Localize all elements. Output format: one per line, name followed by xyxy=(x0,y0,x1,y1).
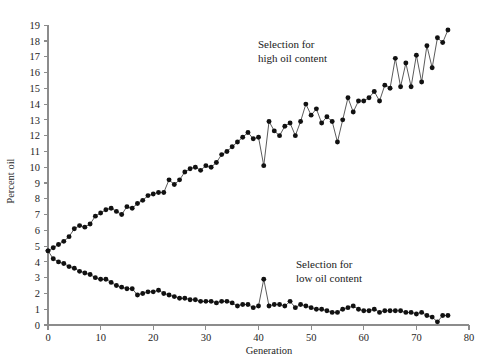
series-data-point xyxy=(209,165,214,170)
series-data-point xyxy=(277,133,282,138)
y-tick-label: 7 xyxy=(35,209,40,220)
series-data-point xyxy=(393,56,398,61)
series-data-point xyxy=(67,234,72,239)
series-data-point xyxy=(340,307,345,312)
series-data-point xyxy=(314,307,319,312)
series-data-point xyxy=(140,291,145,296)
series-data-point xyxy=(188,297,193,302)
x-axis-tick-labels: 01020304050607080 xyxy=(45,332,474,343)
series-data-point xyxy=(298,119,303,124)
series-data-point xyxy=(356,307,361,312)
y-tick-label: 11 xyxy=(30,146,40,157)
series-data-point xyxy=(377,98,382,103)
y-tick-label: 12 xyxy=(30,130,41,141)
series-data-point xyxy=(114,283,119,288)
series-data-point xyxy=(388,86,393,91)
figure-container: 01020304050607080 0123456789101112131415… xyxy=(0,0,478,362)
series-data-point xyxy=(446,27,451,32)
series-data-point xyxy=(93,214,98,219)
series-data-point xyxy=(214,300,219,305)
y-tick-label: 3 xyxy=(35,272,40,283)
series-data-point xyxy=(361,98,366,103)
series-data-point xyxy=(109,280,114,285)
y-tick-label: 6 xyxy=(35,225,40,236)
series-data-point xyxy=(424,313,429,318)
series-data-point xyxy=(130,286,135,291)
series-data-point xyxy=(124,204,129,209)
series-data-point xyxy=(188,166,193,171)
series-data-point xyxy=(335,140,340,145)
x-tick-label: 80 xyxy=(464,332,475,343)
y-tick-label: 9 xyxy=(35,178,40,189)
x-tick-label: 70 xyxy=(411,332,422,343)
x-axis-title: Generation xyxy=(246,345,293,356)
series-data-point xyxy=(251,305,256,310)
series-data-point xyxy=(230,300,235,305)
series-data-point xyxy=(198,299,203,304)
series-data-point xyxy=(209,299,214,304)
series-data-point xyxy=(324,114,329,119)
series-data-point xyxy=(351,304,356,309)
series-data-point xyxy=(167,293,172,298)
chart-annotations: Selection forhigh oil contentSelection f… xyxy=(258,38,362,284)
series-data-point xyxy=(161,190,166,195)
series-data-point xyxy=(224,299,229,304)
y-tick-label: 17 xyxy=(30,51,41,62)
series-data-point xyxy=(430,315,435,320)
series-data-point xyxy=(140,198,145,203)
series-data-point xyxy=(156,190,161,195)
series-data-point xyxy=(146,289,151,294)
series-data-point xyxy=(272,302,277,307)
series-data-point xyxy=(203,163,208,168)
x-tick-label: 40 xyxy=(253,332,264,343)
series-data-point xyxy=(135,293,140,298)
series-data-point xyxy=(103,207,108,212)
y-tick-label: 2 xyxy=(35,288,40,299)
series-data-point xyxy=(293,305,298,310)
series-data-point xyxy=(182,296,187,301)
series-data-point xyxy=(246,302,251,307)
series-data-point xyxy=(130,206,135,211)
series-data-point xyxy=(82,270,87,275)
series-data-point xyxy=(51,256,56,261)
series-data-point xyxy=(246,130,251,135)
series-data-point xyxy=(409,310,414,315)
series-data-point xyxy=(446,313,451,318)
series-data-point xyxy=(398,308,403,313)
series-data-point xyxy=(319,121,324,126)
series-data-point xyxy=(214,160,219,165)
x-tick-label: 50 xyxy=(306,332,317,343)
series-data-point xyxy=(372,307,377,312)
y-tick-label: 13 xyxy=(30,115,41,126)
series-data-point xyxy=(346,305,351,310)
series-data-point xyxy=(424,43,429,48)
series-data-point xyxy=(151,192,156,197)
series-data-point xyxy=(46,248,51,253)
series-high-oil xyxy=(46,27,451,253)
series-data-point xyxy=(403,310,408,315)
series-data-point xyxy=(72,266,77,271)
series-data-point xyxy=(172,294,177,299)
series-data-point xyxy=(56,242,61,247)
series-data-point xyxy=(146,193,151,198)
series-data-point xyxy=(261,277,266,282)
series-data-point xyxy=(382,308,387,313)
series-data-point xyxy=(114,209,119,214)
series-data-point xyxy=(77,269,82,274)
series-data-point xyxy=(93,275,98,280)
series-data-point xyxy=(235,304,240,309)
annotation-line: Selection for xyxy=(258,38,315,50)
series-data-point xyxy=(88,272,93,277)
series-data-point xyxy=(409,84,414,89)
series-data-point xyxy=(324,308,329,313)
series-data-point xyxy=(330,119,335,124)
series-data-point xyxy=(219,152,224,157)
series-data-point xyxy=(56,259,61,264)
y-tick-label: 8 xyxy=(35,193,40,204)
series-data-point xyxy=(303,102,308,107)
series-data-point xyxy=(309,113,314,118)
series-data-point xyxy=(251,136,256,141)
high-oil-annotation: Selection forhigh oil content xyxy=(258,38,327,64)
series-data-point xyxy=(414,53,419,58)
series-data-point xyxy=(182,169,187,174)
